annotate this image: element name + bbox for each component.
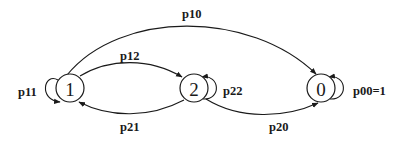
label-p10: p10 xyxy=(182,7,201,21)
label-p20: p20 xyxy=(269,120,288,134)
node-2-label: 2 xyxy=(189,79,199,100)
label-p00: p00=1 xyxy=(353,84,386,98)
node-0: 0 xyxy=(307,74,335,102)
node-0-label: 0 xyxy=(316,79,326,100)
edge-p21 xyxy=(79,100,184,114)
label-p11: p11 xyxy=(18,85,37,99)
markov-chain-diagram: 1 2 0 p11 p12 p21 p22 p10 p20 p00=1 xyxy=(0,0,399,143)
edge-p12 xyxy=(80,63,182,77)
label-p12: p12 xyxy=(120,49,139,63)
label-p21: p21 xyxy=(120,120,139,134)
node-2: 2 xyxy=(180,74,208,102)
node-1-label: 1 xyxy=(65,79,75,100)
edge-p10 xyxy=(67,26,316,75)
node-1: 1 xyxy=(56,74,84,102)
label-p22: p22 xyxy=(223,84,242,98)
edge-p20 xyxy=(206,99,318,115)
